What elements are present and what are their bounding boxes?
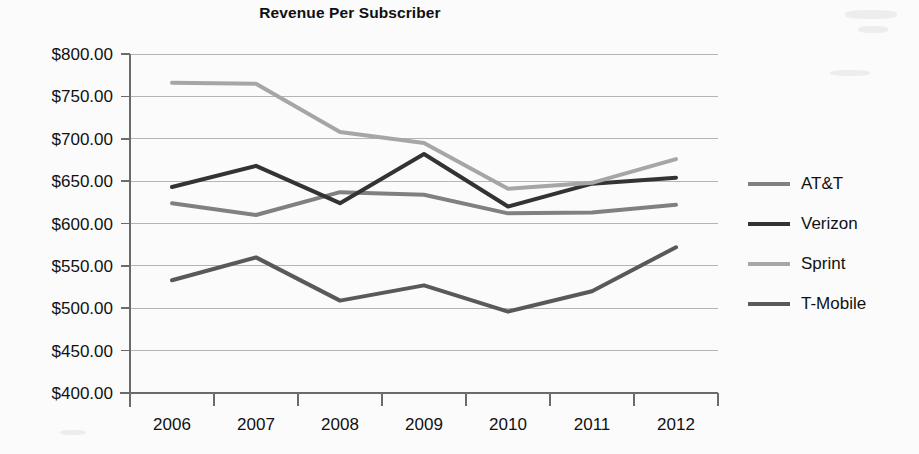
legend-label-verizon: Verizon bbox=[801, 214, 858, 234]
chart-legend: AT&T Verizon Sprint T-Mobile bbox=[748, 164, 913, 324]
axis-ticks bbox=[121, 54, 718, 406]
legend-item-verizon[interactable]: Verizon bbox=[748, 204, 913, 244]
x-tick-label: 2006 bbox=[153, 415, 191, 434]
data-series-lines bbox=[172, 83, 676, 312]
y-tick-label: $700.00 bbox=[52, 130, 113, 149]
x-tick-label: 2009 bbox=[405, 415, 443, 434]
x-tick-label: 2008 bbox=[321, 415, 359, 434]
axis-lines bbox=[120, 54, 718, 407]
gridlines bbox=[130, 54, 718, 393]
y-tick-label: $450.00 bbox=[52, 342, 113, 361]
legend-label-sprint: Sprint bbox=[801, 254, 845, 274]
y-tick-label: $400.00 bbox=[52, 384, 113, 403]
legend-item-sprint[interactable]: Sprint bbox=[748, 244, 913, 284]
chart-container: Revenue Per Subscriber $400.00$450.00$50… bbox=[0, 0, 919, 454]
legend-swatch-sprint bbox=[748, 262, 790, 266]
x-tick-label: 2007 bbox=[237, 415, 275, 434]
series-line-t-mobile bbox=[172, 247, 676, 311]
y-tick-label: $550.00 bbox=[52, 257, 113, 276]
y-tick-label: $500.00 bbox=[52, 299, 113, 318]
legend-swatch-tmobile bbox=[748, 302, 790, 306]
y-tick-label: $800.00 bbox=[52, 45, 113, 64]
legend-label-att: AT&T bbox=[801, 174, 843, 194]
y-axis-tick-labels: $400.00$450.00$500.00$550.00$600.00$650.… bbox=[52, 45, 113, 403]
y-tick-label: $650.00 bbox=[52, 172, 113, 191]
y-tick-label: $750.00 bbox=[52, 87, 113, 106]
series-line-sprint bbox=[172, 83, 676, 189]
x-tick-label: 2011 bbox=[574, 415, 611, 434]
x-axis-tick-labels: 2006200720082009201020112012 bbox=[153, 415, 695, 434]
x-tick-label: 2010 bbox=[489, 415, 527, 434]
legend-label-tmobile: T-Mobile bbox=[801, 294, 866, 314]
legend-item-tmobile[interactable]: T-Mobile bbox=[748, 284, 913, 324]
legend-swatch-verizon bbox=[748, 222, 790, 226]
legend-swatch-att bbox=[748, 182, 790, 186]
x-tick-label: 2012 bbox=[657, 415, 695, 434]
y-tick-label: $600.00 bbox=[52, 215, 113, 234]
series-line-at-t bbox=[172, 192, 676, 215]
legend-item-att[interactable]: AT&T bbox=[748, 164, 913, 204]
